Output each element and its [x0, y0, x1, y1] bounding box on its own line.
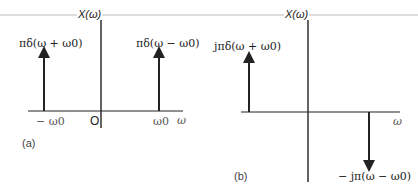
panel-b-x-axis-label: ω [393, 115, 402, 128]
panel-b-impulse-up-label: jπδ(ω + ω0) [214, 40, 281, 53]
panel-a-tick-neg-omega0: − ω0 [36, 115, 65, 128]
panel-a-origin-label: O [90, 114, 99, 128]
panel-a-impulse-right-label: πδ(ω − ω0) [136, 37, 200, 50]
panel-a-impulse-left-label: πδ(ω + ω0) [19, 37, 83, 50]
panel-b-y-axis-label: X(ω) [284, 8, 309, 20]
panel-a-x-axis-label: ω [177, 114, 186, 127]
panel-a-tick-omega0: ω0 [153, 115, 169, 128]
diagram-canvas [0, 0, 418, 191]
panel-a-y-axis-label: X(ω) [77, 8, 102, 20]
panel-b-caption: (b) [234, 170, 247, 182]
panel-b-axes [241, 12, 400, 182]
panel-a-caption: (a) [22, 137, 35, 149]
panel-b-impulse-down-label: − jπ(ω − ω0) [338, 170, 411, 183]
